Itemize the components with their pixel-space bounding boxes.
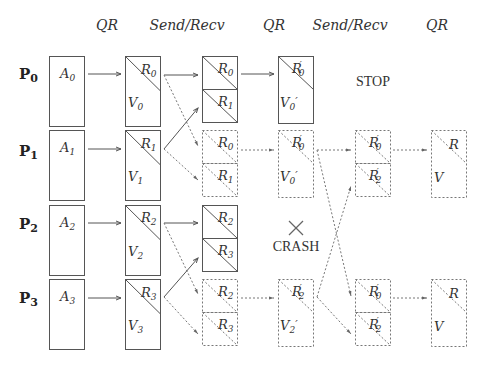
label-sr1-p2-bottom: R3: [217, 243, 234, 260]
label-qr2-p3-v: V2′: [280, 318, 298, 335]
a-blocks: [50, 57, 85, 350]
step-header-qr-3: QR: [426, 17, 448, 33]
label-qr2-p0-r: R′0: [291, 60, 305, 78]
label-a2: A2: [59, 215, 75, 232]
qr3-blocks: [432, 131, 467, 347]
label-qr2-p1-v: V0′: [280, 169, 298, 186]
stop-label: STOP: [356, 74, 390, 89]
label-qr3-p3-v: V: [434, 319, 445, 334]
label-sr1-p3-top: R2: [217, 284, 234, 301]
label-sr1-p2-top: R2: [217, 210, 234, 227]
step-header-qr-2: QR: [263, 17, 285, 33]
arrows-qr1: [88, 74, 121, 298]
label-a1: A1: [59, 140, 75, 157]
label-sr1-p1-top: R0: [217, 135, 234, 152]
crash-x-icon: [289, 221, 303, 235]
sr2-blocks: [356, 131, 391, 346]
label-r3: R3: [140, 285, 157, 302]
label-qr3-p3-r: R: [448, 286, 459, 301]
tsqr-diagram: QR Send/Recv QR Send/Recv QR P0 P1 P2 P3…: [0, 0, 484, 368]
arrows-sendrecv-1: [164, 75, 198, 334]
label-qr2-p0-v: V0′: [280, 95, 298, 112]
label-a3: A3: [59, 289, 75, 306]
step-header-sendrecv-1: Send/Recv: [149, 17, 224, 33]
process-label-p3: P3: [19, 289, 38, 309]
step-header-qr-1: QR: [96, 17, 118, 33]
label-r0: R0: [140, 62, 157, 79]
label-a0: A0: [59, 66, 75, 83]
label-v1: V1: [128, 169, 143, 186]
label-v2: V2: [128, 244, 143, 261]
label-r1: R1: [140, 136, 157, 153]
label-sr1-p1-bottom: R1: [217, 168, 234, 185]
label-v0: V0: [128, 95, 143, 112]
process-label-p0: P0: [19, 65, 38, 85]
arrows-sendrecv-2: [317, 150, 351, 334]
label-sr1-p0-top: R0: [217, 61, 234, 78]
label-qr3-p1-v: V: [434, 170, 445, 185]
process-label-p1: P1: [19, 142, 38, 162]
step-headers: QR Send/Recv QR Send/Recv QR: [96, 17, 448, 33]
arrows-qr2: [241, 74, 274, 298]
label-sr2-p3-top: R′0: [368, 283, 382, 301]
crash-annotation: CRASH: [273, 221, 320, 254]
label-sr2-p1-top: R′0: [368, 134, 382, 152]
process-labels: P0 P1 P2 P3: [19, 65, 38, 309]
label-r2: R2: [140, 210, 157, 227]
label-sr2-p1-bottom: R′2: [368, 167, 382, 185]
label-qr2-p1-r: R′0: [291, 134, 305, 152]
step-header-sendrecv-2: Send/Recv: [312, 17, 387, 33]
arrows-qr3: [393, 150, 427, 298]
crash-label: CRASH: [273, 239, 320, 254]
label-v3: V3: [128, 318, 143, 335]
label-sr1-p3-bottom: R3: [217, 317, 234, 334]
label-qr2-p3-r: R′2: [291, 283, 305, 301]
process-label-p2: P2: [19, 215, 38, 235]
label-sr2-p3-bottom: R′2: [368, 316, 382, 334]
label-qr3-p1-r: R: [448, 137, 459, 152]
label-sr1-p0-bottom: R1: [217, 94, 234, 111]
